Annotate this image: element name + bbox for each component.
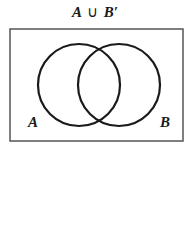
set-b-label: B [160,114,170,130]
set-a-label: A [28,114,38,130]
